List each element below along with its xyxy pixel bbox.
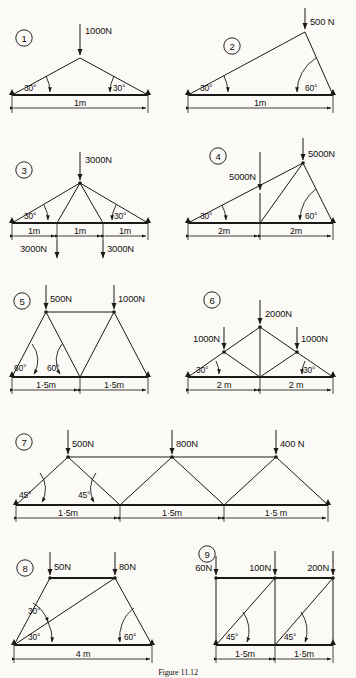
problem-2-load-arrow: 500 N <box>305 8 334 29</box>
problem-6-number-badge: 6 <box>204 292 220 308</box>
problem-3-load-left-label: 3000N <box>20 243 47 254</box>
problem-1: 1 1000N 30° 30° 1m <box>9 24 151 113</box>
problem-3-angle-right-label: 30° <box>114 211 126 221</box>
problem-8-dimension: 4 m <box>14 645 152 663</box>
problem-6-load-apex-label: 2000N <box>265 308 292 319</box>
problem-6-load-arrow-right: 1000N <box>297 327 328 349</box>
problem-6-angle-left-label: 30° <box>196 365 208 375</box>
problem-9-angle-left-label: 45° <box>226 632 238 642</box>
problem-9-load-1-label: 60N <box>195 562 212 573</box>
problem-9-angle-left: 45° <box>226 612 249 642</box>
problem-4-angle-right-label: 60° <box>305 211 317 221</box>
problem-8-angle-upper-label: 30° <box>28 606 40 616</box>
problem-2-span-label: 1m <box>254 98 266 108</box>
problem-7-dim-3: 1·5 m <box>265 508 287 518</box>
problem-4-load-mid-label: 5000N <box>229 171 256 182</box>
problem-8-load-right-label: 80N <box>119 561 136 572</box>
problem-9-dim-1: 1·5m <box>235 649 255 659</box>
problem-1-load-arrow: 1000N <box>80 24 112 55</box>
problem-1-number-badge: 1 <box>16 30 32 46</box>
problem-6-dimensions: 2 m 2 m <box>188 377 333 394</box>
problem-6: 6 2000N 1000N 1000N 30° <box>185 292 336 394</box>
problem-8-number-badge: 8 <box>17 560 33 576</box>
problem-1-angle-left-label: 30° <box>24 83 36 93</box>
problem-7-load-arrow-2: 800N <box>172 430 198 454</box>
problem-5-angle-inner: 60° <box>47 344 62 374</box>
problem-3-number-badge: 3 <box>16 162 32 178</box>
problem-9: 9 60N 100N 200N <box>195 546 336 663</box>
problem-4-load-arrow-mid: 5000N <box>229 152 260 190</box>
truss-figure-svg: 1 1000N 30° 30° 1m <box>0 0 356 678</box>
problem-7-load-1-label: 500N <box>72 438 94 449</box>
problem-3-lower-loads: 3000N 3000N <box>20 240 134 258</box>
problem-7-number: 7 <box>21 437 26 448</box>
problem-8-load-arrow-right: 80N <box>115 552 136 575</box>
problem-9-angle-right-label: 45° <box>284 632 296 642</box>
problem-6-dim-1: 2 m <box>217 380 232 390</box>
problem-8-angle-lower: 30° <box>28 622 52 642</box>
problem-4-number-badge: 4 <box>210 148 226 164</box>
figure-caption: Figure 11.12 <box>158 668 198 677</box>
problem-5: 5 500N 1000N 60° 60° <box>9 285 151 394</box>
problem-7-members <box>13 455 331 505</box>
problem-3-dim-1: 1m <box>28 226 40 236</box>
problem-2-angle-right-label: 60° <box>305 83 317 93</box>
problem-2-angle-right: 60° <box>297 58 317 93</box>
problem-7-angle-inner: 45° <box>78 473 96 502</box>
problem-7-dimensions: 1·5m 1·5m 1·5 m <box>16 505 328 522</box>
problem-4: 4 5000N 5000N 30° 60° <box>185 138 336 240</box>
problem-5-angle-left: 60° <box>14 344 38 374</box>
problem-5-angle-left-label: 60° <box>14 363 26 373</box>
problem-7-angle-inner-label: 45° <box>78 490 90 500</box>
problem-8-load-arrow-left: 50N <box>50 552 71 575</box>
problem-8-angle-lower-label: 30° <box>28 632 40 642</box>
problem-9-dimensions: 1·5m 1·5m <box>216 645 333 663</box>
problem-5-angle-inner-label: 60° <box>47 363 59 373</box>
problem-8-number: 8 <box>22 563 27 574</box>
problem-4-angle-left-label: 30° <box>200 211 212 221</box>
problem-3-dimensions: 1m 1m 1m <box>12 223 148 240</box>
problem-5-load-right-label: 1000N <box>118 293 145 304</box>
problem-6-load-arrow-apex: 2000N <box>260 300 292 324</box>
problem-7-number-badge: 7 <box>16 434 32 450</box>
problem-7-angle-left-label: 45° <box>19 490 31 500</box>
problem-8-angle-upper: 30° <box>28 603 48 622</box>
problem-9-angle-right: 45° <box>284 612 307 642</box>
problem-8: 8 50N 80N 30° 30° <box>11 552 155 663</box>
problem-8-angle-right: 60° <box>120 608 137 642</box>
problem-7-angle-left: 45° <box>19 473 45 502</box>
problem-8-load-left-label: 50N <box>54 561 71 572</box>
problem-3-number: 3 <box>21 165 26 176</box>
problem-3-dim-2: 1m <box>74 226 86 236</box>
problem-4-angle-right: 60° <box>300 189 317 221</box>
problem-4-dimensions: 2m 2m <box>188 223 333 240</box>
problem-6-load-arrow-left: 1000N <box>193 327 224 349</box>
problem-1-load-label: 1000N <box>85 25 112 36</box>
problem-3: 3 3000N 30° 30° <box>9 152 151 258</box>
problem-9-load-arrow-3: 200N <box>307 551 333 575</box>
problem-6-number: 6 <box>209 295 214 306</box>
problem-7-load-3-label: 400 N <box>280 438 304 449</box>
problem-3-load-apex-label: 3000N <box>85 154 112 165</box>
problem-2-angle-left-label: 30° <box>200 83 212 93</box>
problem-8-angle-right-label: 60° <box>124 632 136 642</box>
problem-7-load-2-label: 800N <box>176 438 198 449</box>
problem-4-dim-1: 2m <box>218 226 230 236</box>
problem-5-number-badge: 5 <box>14 293 30 309</box>
problem-5-members <box>9 310 151 377</box>
problem-3-angle-left: 30° <box>24 205 48 221</box>
problem-1-dimension: 1m <box>12 95 148 113</box>
problem-5-dimensions: 1·5m 1·5m <box>12 377 148 394</box>
problem-9-number: 9 <box>204 549 209 560</box>
problem-5-number: 5 <box>19 296 24 307</box>
problem-4-angle-left: 30° <box>200 205 226 221</box>
problem-7-dim-2: 1·5m <box>162 508 182 518</box>
problem-1-angle-right-label: 30° <box>113 83 125 93</box>
problem-3-dim-3: 1m <box>119 226 131 236</box>
problem-4-load-apex-label: 5000N <box>308 148 335 159</box>
problem-2: 2 500 N 30° 60° 1m <box>185 8 336 113</box>
problem-2-number: 2 <box>229 41 234 52</box>
problem-4-number: 4 <box>215 151 221 162</box>
problem-6-load-left-label: 1000N <box>193 333 220 344</box>
problem-6-load-right-label: 1000N <box>301 333 328 344</box>
